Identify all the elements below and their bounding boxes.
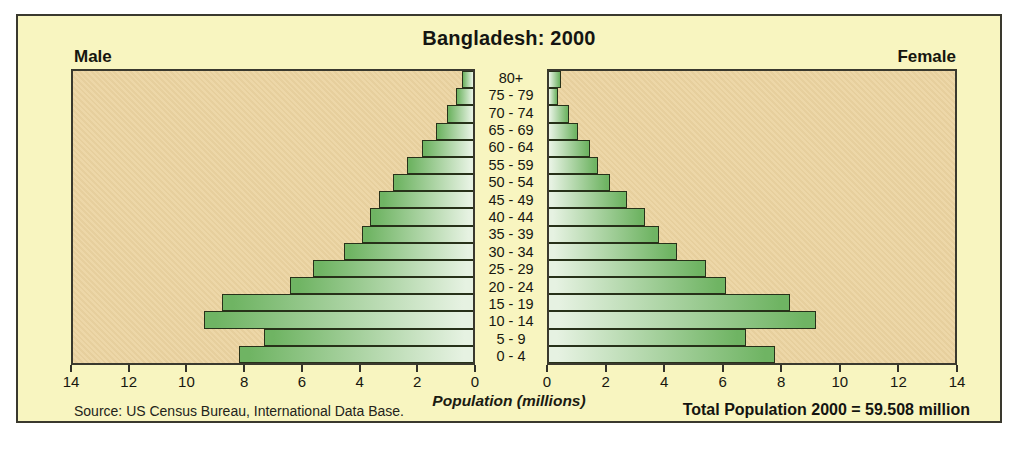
female-bar-row <box>549 123 955 140</box>
male-bar-15-19 <box>222 294 473 311</box>
male-bar-row <box>73 346 473 363</box>
age-group-label: 75 - 79 <box>475 86 547 103</box>
age-group-label: 40 - 44 <box>475 208 547 225</box>
age-group-label: 70 - 74 <box>475 104 547 121</box>
male-bar-row <box>73 140 473 157</box>
axis-tick-label: 8 <box>240 373 248 390</box>
axis-tick-label: 4 <box>355 373 363 390</box>
male-bar-75-79 <box>456 88 473 105</box>
axis-tick-label: 2 <box>413 373 421 390</box>
axis-tick-mark <box>897 365 899 372</box>
axis-tick-mark <box>605 365 607 372</box>
male-bar-70-74 <box>447 105 473 122</box>
axis-tick-mark <box>70 365 72 372</box>
male-bar-30-34 <box>344 243 473 260</box>
age-group-label: 60 - 64 <box>475 139 547 156</box>
age-group-label: 0 - 4 <box>475 348 547 365</box>
axis-tick-mark <box>839 365 841 372</box>
female-bar-row <box>549 346 955 363</box>
female-bar-row <box>549 71 955 88</box>
female-bar-20-24 <box>549 277 726 294</box>
female-bar-15-19 <box>549 294 790 311</box>
male-bar-row <box>73 329 473 346</box>
male-bar-35-39 <box>362 226 473 243</box>
age-group-label: 50 - 54 <box>475 173 547 190</box>
female-bars-panel <box>547 69 957 365</box>
age-group-label: 5 - 9 <box>475 330 547 347</box>
male-bar-20-24 <box>290 277 473 294</box>
male-bar-row <box>73 260 473 277</box>
age-group-labels-column: 80+75 - 7970 - 7465 - 6960 - 6455 - 5950… <box>475 69 547 365</box>
male-bar-5-9 <box>264 329 473 346</box>
male-bar-row <box>73 174 473 191</box>
female-bar-row <box>549 329 955 346</box>
axis-tick-label: 12 <box>890 373 907 390</box>
axis-tick-mark <box>474 365 476 372</box>
female-bar-row <box>549 105 955 122</box>
male-bar-80+ <box>462 71 473 88</box>
axis-tick-mark <box>722 365 724 372</box>
axis-tick-label: 12 <box>120 373 137 390</box>
male-bar-row <box>73 243 473 260</box>
total-population-note: Total Population 2000 = 59.508 million <box>683 401 970 419</box>
female-bar-25-29 <box>549 260 706 277</box>
female-bar-row <box>549 208 955 225</box>
female-bar-row <box>549 157 955 174</box>
axis-tick-mark <box>956 365 958 372</box>
axis-tick-label: 0 <box>543 373 551 390</box>
female-bar-55-59 <box>549 157 598 174</box>
axis-tick-label: 10 <box>832 373 849 390</box>
axis-tick-label: 14 <box>949 373 966 390</box>
age-group-label: 30 - 34 <box>475 243 547 260</box>
age-group-label: 20 - 24 <box>475 278 547 295</box>
male-bar-50-54 <box>393 174 473 191</box>
age-group-label: 80+ <box>475 69 547 86</box>
male-bar-0-4 <box>239 346 473 363</box>
male-bar-row <box>73 105 473 122</box>
pyramid-chart-frame: Bangladesh: 2000 Male Female 80+75 - 797… <box>16 14 1002 423</box>
female-bar-row <box>549 243 955 260</box>
age-group-label: 65 - 69 <box>475 121 547 138</box>
axis-tick-mark <box>416 365 418 372</box>
male-bar-10-14 <box>204 311 473 328</box>
female-bar-45-49 <box>549 191 627 208</box>
female-bar-row <box>549 311 955 328</box>
female-bar-row <box>549 140 955 157</box>
male-bar-40-44 <box>370 208 473 225</box>
female-bar-row <box>549 277 955 294</box>
male-bars-panel <box>71 69 475 365</box>
female-bar-0-4 <box>549 346 775 363</box>
female-bar-50-54 <box>549 174 610 191</box>
female-bar-5-9 <box>549 329 746 346</box>
male-bar-row <box>73 226 473 243</box>
male-bar-row <box>73 123 473 140</box>
axis-tick-mark <box>359 365 361 372</box>
female-bar-35-39 <box>549 226 659 243</box>
female-bar-70-74 <box>549 105 569 122</box>
axis-tick-mark <box>301 365 303 372</box>
male-bar-row <box>73 208 473 225</box>
female-bar-65-69 <box>549 123 578 140</box>
male-header-label: Male <box>74 47 112 67</box>
female-bar-row <box>549 226 955 243</box>
male-x-axis: 14121086420 <box>71 365 475 389</box>
axis-tick-label: 8 <box>777 373 785 390</box>
axis-tick-label: 0 <box>471 373 479 390</box>
source-note: Source: US Census Bureau, International … <box>74 403 404 419</box>
male-bar-25-29 <box>313 260 473 277</box>
female-bar-10-14 <box>549 311 816 328</box>
female-bar-row <box>549 191 955 208</box>
axis-tick-label: 6 <box>298 373 306 390</box>
male-bar-60-64 <box>422 140 473 157</box>
female-bar-30-34 <box>549 243 677 260</box>
axis-tick-label: 4 <box>660 373 668 390</box>
male-bar-row <box>73 71 473 88</box>
male-bar-55-59 <box>407 157 473 174</box>
chart-title: Bangladesh: 2000 <box>18 27 1000 50</box>
female-bar-row <box>549 88 955 105</box>
female-bar-row <box>549 260 955 277</box>
age-group-label: 55 - 59 <box>475 156 547 173</box>
age-group-label: 35 - 39 <box>475 226 547 243</box>
age-group-label: 10 - 14 <box>475 313 547 330</box>
male-bar-row <box>73 191 473 208</box>
